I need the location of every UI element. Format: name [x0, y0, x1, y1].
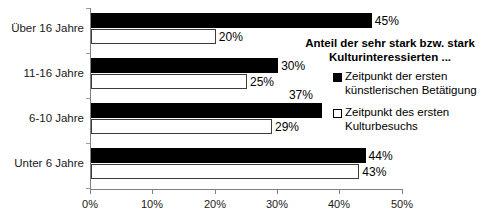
category-label-2: 6-10 Jahre [29, 112, 84, 124]
legend-swatch-filled-icon [333, 73, 342, 82]
bar-value-label-s1-c3: 43% [362, 165, 386, 179]
bar-value-label-s0-c0: 45% [375, 14, 399, 28]
category-label-0: Über 16 Jahre [11, 22, 84, 34]
y-tick-0 [86, 8, 90, 9]
category-label-1: 11-16 Jahre [23, 67, 84, 79]
x-tick-3 [277, 189, 278, 194]
x-tick-label-0: 0% [82, 198, 98, 210]
x-tick-2 [215, 189, 216, 194]
x-tick-label-1: 10% [141, 198, 163, 210]
bar-value-label-s0-c2: 37% [289, 88, 313, 102]
legend-item-0: Zeitpunkt der ersten künstlerischen Betä… [333, 70, 492, 97]
bar-s0-c3 [91, 148, 366, 163]
bar-s0-c2 [91, 103, 322, 118]
category-axis-labels: Über 16 Jahre 11-16 Jahre 6-10 Jahre Unt… [0, 8, 84, 189]
legend-label-1: Zeitpunkt des ersten Kulturbesuchs [345, 106, 449, 133]
legend-label-0-line-2: künstlerischen Betätigung [345, 84, 477, 96]
y-tick-1 [86, 53, 90, 54]
bar-s0-c0 [91, 13, 372, 28]
bar-s1-c3 [91, 164, 359, 179]
x-tick-5 [402, 189, 403, 194]
x-tick-label-3: 30% [266, 198, 288, 210]
y-tick-2 [86, 98, 90, 99]
bar-value-label-s1-c1: 25% [250, 75, 274, 89]
legend: Zeitpunkt der ersten künstlerischen Betä… [333, 70, 492, 142]
bar-s1-c0 [91, 29, 216, 44]
bar-value-label-s1-c2: 29% [275, 120, 299, 134]
bar-s1-c2 [91, 119, 272, 134]
chart-title: Anteil der sehr stark bzw. stark Kulturi… [290, 36, 490, 64]
legend-label-1-line-2: Kulturbesuchs [345, 120, 418, 132]
legend-swatch-open-icon [333, 109, 342, 118]
bar-s0-c1 [91, 58, 278, 73]
legend-label-1-line-1: Zeitpunkt des ersten [345, 106, 449, 118]
chart-title-line-2: Kulturinteressierten ... [290, 50, 490, 64]
bar-s1-c1 [91, 74, 247, 89]
category-label-3: Unter 6 Jahre [14, 157, 84, 169]
x-tick-label-4: 40% [328, 198, 350, 210]
y-tick-3 [86, 143, 90, 144]
bar-chart: Über 16 Jahre 11-16 Jahre 6-10 Jahre Unt… [0, 0, 492, 220]
x-tick-1 [152, 189, 153, 194]
bar-value-label-s0-c3: 44% [369, 149, 393, 163]
chart-title-line-1: Anteil der sehr stark bzw. stark [290, 36, 490, 50]
x-tick-4 [339, 189, 340, 194]
x-axis-line [90, 189, 402, 190]
x-tick-0 [90, 189, 91, 194]
x-tick-label-2: 20% [204, 198, 226, 210]
bar-value-label-s1-c0: 20% [219, 30, 243, 44]
legend-label-0-line-1: Zeitpunkt der ersten [345, 70, 447, 82]
x-tick-label-5: 50% [391, 198, 413, 210]
legend-item-1: Zeitpunkt des ersten Kulturbesuchs [333, 106, 492, 133]
legend-label-0: Zeitpunkt der ersten künstlerischen Betä… [345, 70, 477, 97]
